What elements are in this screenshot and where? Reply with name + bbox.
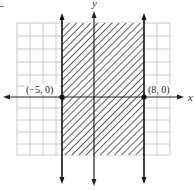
coordinate-graph: - x y — [0, 0, 195, 190]
point-right-label: (8, 0) — [148, 84, 170, 96]
point-left — [59, 94, 64, 99]
point-right — [141, 94, 146, 99]
y-axis-label: y — [91, 0, 97, 9]
figure-marker: - — [0, 0, 3, 11]
hatch-fill — [62, 23, 144, 155]
point-left-label: (−5, 0) — [26, 84, 53, 96]
x-axis-label: x — [187, 91, 193, 103]
